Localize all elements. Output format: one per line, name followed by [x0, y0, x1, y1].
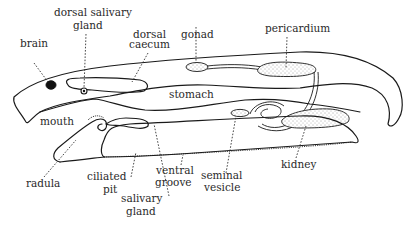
label-gonad: gonad	[181, 28, 214, 40]
label-ventral-groove: ventral	[155, 164, 194, 176]
label-stomach: stomach	[169, 88, 214, 100]
seminal-vesicle-organ	[231, 102, 284, 119]
label-pericardium: pericardium	[265, 22, 330, 34]
kidney-organ	[282, 109, 349, 128]
label-radula: radula	[26, 177, 60, 189]
label-ventral-groove-2: groove	[155, 176, 192, 188]
label-dorsal-salivary-gland-2: gland	[73, 19, 103, 31]
label-seminal-vesicle-2: vesicle	[203, 181, 240, 193]
dorsal-salivary-gland-core	[83, 90, 85, 92]
pericardium-organ	[258, 62, 316, 76]
gonad-organ	[186, 63, 262, 72]
label-seminal-vesicle: seminal	[201, 169, 243, 181]
label-ciliated-pit: ciliated	[87, 170, 127, 182]
label-dorsal-caecum-2: caecum	[129, 38, 170, 50]
dorsal-caecum	[67, 78, 148, 93]
label-salivary-gland: salivary	[121, 192, 163, 204]
anatomy-diagram: brain dorsal salivary gland dorsal caecu…	[0, 0, 416, 228]
label-mouth: mouth	[40, 115, 74, 127]
label-ciliated-pit-2: pit	[103, 183, 118, 195]
label-salivary-gland-2: gland	[126, 205, 156, 217]
label-kidney: kidney	[281, 158, 316, 170]
label-dorsal-salivary-gland: dorsal salivary	[54, 6, 132, 18]
label-brain: brain	[20, 37, 48, 49]
